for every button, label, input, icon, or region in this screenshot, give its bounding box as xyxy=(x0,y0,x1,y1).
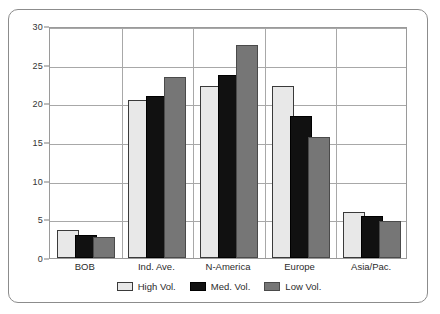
y-axis: 051015202530 xyxy=(9,27,49,259)
chart-card: 051015202530 BOBInd. Ave.N-AmericaEurope… xyxy=(8,9,428,303)
bar xyxy=(93,237,115,258)
y-axis-tick-label: 30 xyxy=(33,22,43,32)
x-axis-label: BOB xyxy=(75,261,95,272)
legend-item: Med. Vol. xyxy=(190,281,251,292)
y-axis-tick-label: 15 xyxy=(33,138,43,148)
x-axis-label: N-America xyxy=(206,261,251,272)
bar-group xyxy=(336,28,408,258)
y-axis-tick-label: 5 xyxy=(38,215,43,225)
legend-item: Low Vol. xyxy=(264,281,321,292)
plot-area xyxy=(49,27,407,259)
x-axis-label: Asia/Pac. xyxy=(351,261,391,272)
legend-swatch xyxy=(264,282,280,291)
bar xyxy=(236,45,258,258)
legend-label: High Vol. xyxy=(138,281,176,292)
legend-label: Med. Vol. xyxy=(211,281,251,292)
bar xyxy=(379,221,401,258)
y-axis-tick-label: 10 xyxy=(33,177,43,187)
x-axis-labels: BOBInd. Ave.N-AmericaEuropeAsia/Pac. xyxy=(49,261,407,277)
chart-legend: High Vol.Med. Vol.Low Vol. xyxy=(9,281,429,292)
legend-item: High Vol. xyxy=(117,281,176,292)
y-axis-tick-label: 25 xyxy=(33,61,43,71)
legend-swatch xyxy=(117,282,133,291)
legend-label: Low Vol. xyxy=(285,281,321,292)
bar-group xyxy=(122,28,194,258)
y-axis-tick-label: 20 xyxy=(33,99,43,109)
bar xyxy=(164,77,186,258)
y-axis-tick-label: 0 xyxy=(38,254,43,264)
x-axis-label: Europe xyxy=(284,261,315,272)
bar-group xyxy=(50,28,122,258)
bar-group xyxy=(193,28,265,258)
x-axis-label: Ind. Ave. xyxy=(138,261,175,272)
bar xyxy=(308,137,330,258)
legend-swatch xyxy=(190,282,206,291)
bar-group xyxy=(265,28,337,258)
